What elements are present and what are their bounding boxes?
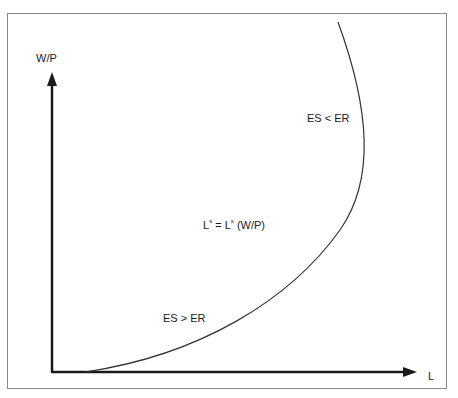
region-label-lower: ES > ER — [163, 312, 206, 324]
curve-equation-label: Ls = Ls (W/P) — [203, 219, 265, 231]
x-axis-label: L — [428, 370, 434, 382]
equals-sign: = — [215, 219, 221, 231]
region-label-upper: ES < ER — [307, 112, 350, 124]
rhs-base: L — [225, 219, 231, 231]
rhs-sup: s — [231, 218, 234, 224]
y-axis-arrow-icon — [47, 72, 57, 86]
labor-supply-diagram — [0, 0, 458, 398]
rhs-arg: (W/P) — [237, 219, 265, 231]
lhs-sup: s — [209, 218, 212, 224]
x-axis-arrow-icon — [403, 367, 417, 377]
labor-supply-curve — [85, 22, 364, 372]
y-axis-label: W/P — [36, 52, 57, 64]
